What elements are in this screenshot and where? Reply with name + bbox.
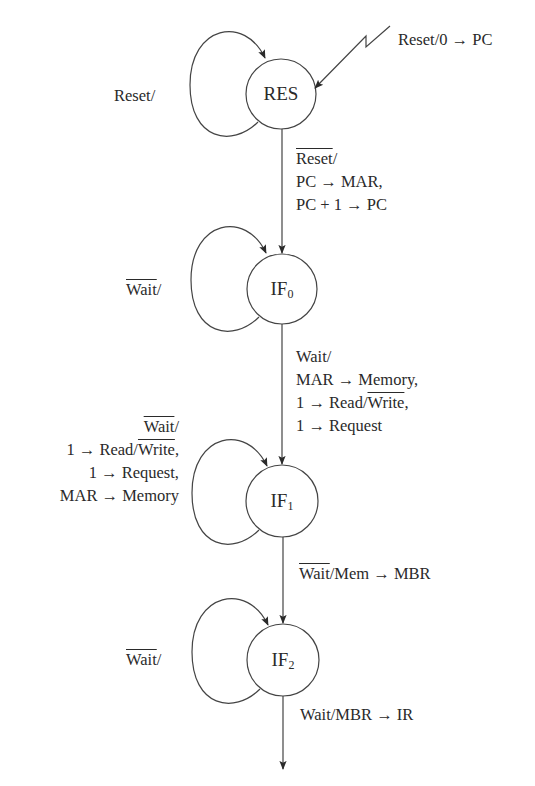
if1-if2-condition: Wait (299, 564, 330, 583)
if2-loop-slash: / (157, 650, 162, 669)
if0-if1-action-1: MAR → Memory, (296, 368, 418, 391)
state-res-name: RES (264, 83, 299, 104)
state-if1-label: IF1 (247, 489, 317, 518)
if1-if2-action: /Mem → MBR (330, 564, 431, 583)
res-if0-action-2: PC + 1 → PC (296, 193, 387, 216)
state-if1-subscript: 1 (287, 499, 293, 513)
if0-loop-condition: Wait (126, 280, 157, 299)
state-if0-name: IF (271, 278, 288, 299)
state-if0-label: IF0 (247, 277, 317, 306)
state-if0-subscript: 0 (287, 287, 293, 301)
state-if2-label: IF2 (248, 648, 318, 677)
if1-loop-action-1-post: , (175, 440, 179, 459)
if1-loop-action-1: 1 → Read/Write, (60, 438, 179, 461)
reset-entry-label: Reset/0 → PC (398, 28, 492, 51)
if0-if1-action-2-neg: Write (368, 393, 405, 412)
res-if0-slash: / (333, 149, 338, 168)
if1-loop-action-1-neg: Write (138, 440, 175, 459)
if0-loop-slash: / (157, 280, 162, 299)
if1-loop-action-1-pre: 1 → Read/ (66, 440, 138, 459)
state-res-label: RES (246, 82, 316, 106)
if1-loop-action-3: MAR → Memory (60, 484, 179, 507)
res-if0-label: Reset/ PC → MAR, PC + 1 → PC (296, 147, 387, 216)
state-if1-name: IF (271, 490, 288, 511)
res-if0-action-1: PC → MAR, (296, 170, 387, 193)
reset-lightning-arrow (315, 26, 390, 88)
res-if0-condition: Reset (296, 149, 333, 168)
res-loop-slash: / (151, 86, 156, 105)
if0-if1-action-2-pre: 1 → Read/ (296, 393, 368, 412)
if1-loop-slash: / (174, 417, 179, 436)
if1-loop-condition: Wait (144, 417, 175, 436)
if1-if2-label: Wait/Mem → MBR (299, 562, 431, 585)
if2-loop-condition: Wait (126, 650, 157, 669)
if0-loop-label: Wait/ (126, 278, 161, 301)
if0-if1-action-2-post: , (404, 393, 408, 412)
if0-if1-label: Wait/ MAR → Memory, 1 → Read/Write, 1 → … (296, 345, 418, 437)
if1-loop-label: Wait/ 1 → Read/Write, 1 → Request, MAR →… (60, 415, 179, 507)
state-if2-name: IF (272, 649, 289, 670)
if0-if1-action-3: 1 → Request (296, 414, 418, 437)
if1-loop-action-2: 1 → Request, (60, 461, 179, 484)
state-if2-subscript: 2 (288, 658, 294, 672)
res-if0-condition-line: Reset/ (296, 147, 387, 170)
if2-loop-label: Wait/ (126, 648, 161, 671)
if1-loop-condition-line: Wait/ (60, 415, 179, 438)
if2-out-label: Wait/MBR → IR (300, 703, 413, 726)
reset-entry-text: Reset/0 → PC (398, 30, 492, 49)
if0-if1-action-2: 1 → Read/Write, (296, 391, 418, 414)
if0-if1-condition: Wait/ (296, 345, 418, 368)
res-loop-condition: Reset (114, 86, 151, 105)
res-loop-label: Reset/ (114, 84, 155, 107)
if2-out-text: Wait/MBR → IR (300, 705, 413, 724)
